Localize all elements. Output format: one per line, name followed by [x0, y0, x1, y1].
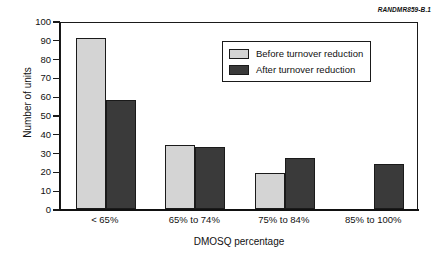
y-axis-tick: [53, 40, 60, 41]
y-axis-tick: [53, 115, 60, 116]
x-axis-title: DMOSQ percentage: [60, 236, 418, 247]
legend-item: After turnover reduction: [229, 63, 363, 76]
y-axis-tick: [53, 153, 60, 154]
bar-after: [195, 147, 225, 209]
bar-after: [285, 158, 315, 209]
y-axis-tick: [53, 97, 60, 98]
y-axis-tick-label: 10: [5, 186, 51, 196]
y-axis-tick: [53, 78, 60, 79]
y-axis-tick: [53, 172, 60, 173]
legend-item: Before turnover reduction: [229, 47, 363, 60]
y-axis-tick-label: 0: [5, 205, 51, 215]
bar-after: [374, 164, 404, 209]
legend-swatch-before: [229, 49, 249, 59]
y-axis-tick: [53, 191, 60, 192]
bar-before: [76, 38, 106, 209]
legend-swatch-after: [229, 65, 249, 75]
y-axis-tick: [53, 21, 60, 22]
source-tag: RANDMR859-B.1: [378, 6, 431, 13]
y-axis-tick: [53, 59, 60, 60]
x-axis-tick-label: 85% to 100%: [318, 214, 428, 225]
bar-before: [165, 145, 195, 209]
bar-before: [255, 173, 285, 209]
legend-item-label: After turnover reduction: [256, 65, 355, 75]
legend-item-label: Before turnover reduction: [256, 49, 363, 59]
chart-legend: Before turnover reductionAfter turnover …: [222, 41, 371, 82]
y-axis-title: Number of units: [22, 23, 33, 183]
figure-container: RANDMR859-B.1 0102030405060708090100 Num…: [0, 0, 443, 269]
y-axis-tick: [53, 134, 60, 135]
x-axis-line: [59, 209, 419, 212]
bar-after: [106, 100, 136, 209]
y-axis-tick: [53, 209, 60, 210]
